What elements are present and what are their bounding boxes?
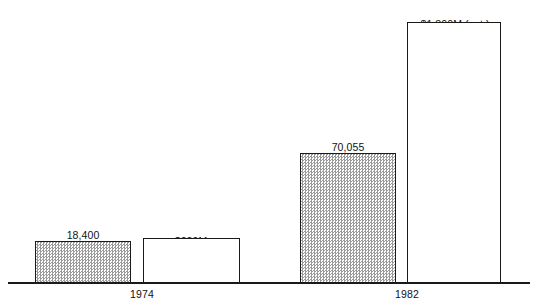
bar-chart: 18,400 beneficiaries $229M 1974 70,055 b…	[0, 0, 537, 305]
bar-value-label-line1: 18,400	[18, 229, 148, 242]
bar-1974-dollars	[143, 238, 240, 283]
bar-1982-dollars	[407, 22, 501, 283]
x-axis-label-1974: 1974	[107, 288, 177, 300]
x-axis-label-1982: 1982	[372, 288, 442, 300]
x-axis-baseline	[8, 282, 530, 284]
bar-value-label-line1: 70,055	[283, 141, 413, 154]
bar-1974-beneficiaries	[35, 241, 131, 283]
bar-1982-beneficiaries	[300, 153, 396, 283]
